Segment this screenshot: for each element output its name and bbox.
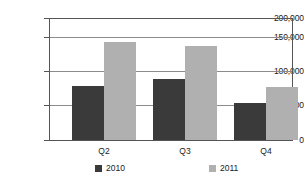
bar-2010-q4 — [234, 103, 266, 140]
bar-2011-q4 — [266, 87, 298, 140]
legend-item-2011: 2011 — [209, 164, 238, 173]
bar-2011-q2 — [104, 42, 136, 140]
bar-2010-q2 — [72, 86, 104, 140]
legend-swatch-2010 — [95, 165, 102, 172]
plot-frame-bottom — [49, 140, 293, 141]
legend-swatch-2011 — [209, 165, 216, 172]
legend-label-2010: 2010 — [106, 164, 125, 173]
legend-item-2010: 2010 — [95, 164, 125, 173]
x-axis-tick-label-q2: Q2 — [88, 147, 120, 156]
x-axis-tick-label-q3: Q3 — [169, 147, 201, 156]
legend-label-2011: 2011 — [220, 164, 238, 173]
bar-2010-q3 — [153, 79, 185, 140]
x-axis-tick-label-q4: Q4 — [250, 147, 282, 156]
bars-layer — [50, 18, 292, 140]
bar-chart: 200,000 150,000 100,000 50,000 0 Q2 Q3 Q… — [0, 0, 304, 180]
bar-2011-q3 — [185, 46, 217, 141]
